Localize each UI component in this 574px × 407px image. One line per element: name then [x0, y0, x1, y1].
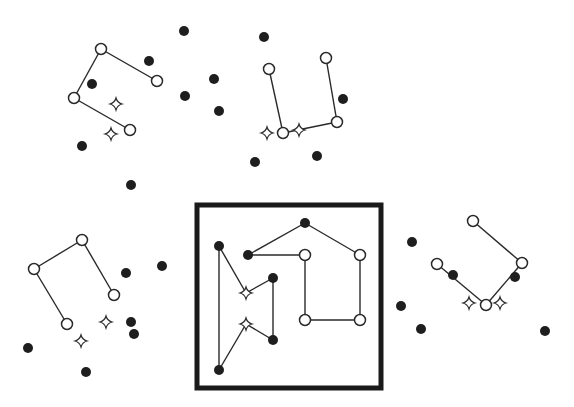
diagram-canvas [0, 0, 574, 407]
filled-nodes [23, 26, 550, 377]
filled-node-icon [126, 180, 136, 190]
star-node-icon [463, 297, 475, 309]
filled-node-icon [209, 74, 219, 84]
star-node-icon [75, 335, 87, 347]
filled-node-icon [126, 317, 136, 327]
filled-node-icon [129, 329, 139, 339]
filled-node-icon [243, 250, 253, 260]
star-node-icon [494, 297, 506, 309]
star-node-icon [105, 128, 117, 140]
filled-node-icon [77, 141, 87, 151]
open-node-icon [321, 53, 332, 64]
open-node-icon [152, 76, 163, 87]
edge-line [437, 264, 486, 305]
edge-line [305, 223, 360, 255]
open-node-icon [355, 315, 366, 326]
star-node-icon [110, 98, 122, 110]
edge-line [34, 240, 82, 269]
open-node-icon [481, 300, 492, 311]
open-node-icon [300, 315, 311, 326]
filled-node-icon [416, 324, 426, 334]
filled-node-icon [179, 26, 189, 36]
edge-line [473, 221, 522, 263]
filled-node-icon [312, 151, 322, 161]
filled-node-icon [250, 157, 260, 167]
open-node-icon [69, 93, 80, 104]
filled-node-icon [214, 106, 224, 116]
filled-node-icon [300, 218, 310, 228]
edge-line [74, 98, 130, 130]
star-node-icon [100, 316, 112, 328]
open-node-icon [332, 117, 343, 128]
filled-node-icon [510, 272, 520, 282]
filled-node-icon [23, 343, 33, 353]
filled-node-icon [180, 91, 190, 101]
open-node-icon [96, 44, 107, 55]
star-nodes [75, 98, 506, 347]
open-node-icon [432, 259, 443, 270]
open-node-icon [109, 290, 120, 301]
open-node-icon [29, 264, 40, 275]
filled-node-icon [338, 94, 348, 104]
open-node-icon [517, 258, 528, 269]
open-node-icon [264, 64, 275, 75]
filled-node-icon [407, 237, 417, 247]
edge-line [82, 240, 114, 295]
edge-line [283, 122, 337, 133]
open-nodes [29, 44, 528, 330]
open-node-icon [355, 250, 366, 261]
star-node-icon [240, 287, 252, 299]
filled-node-icon [268, 335, 278, 345]
filled-node-icon [214, 241, 224, 251]
open-node-icon [77, 235, 88, 246]
filled-node-icon [81, 367, 91, 377]
filled-node-icon [268, 273, 278, 283]
filled-node-icon [157, 261, 167, 271]
open-node-icon [125, 125, 136, 136]
filled-node-icon [259, 32, 269, 42]
edge-line [248, 223, 305, 255]
edge-line [486, 263, 522, 305]
edge-line [219, 324, 246, 370]
filled-node-icon [396, 301, 406, 311]
filled-node-icon [87, 79, 97, 89]
edge-line [219, 246, 246, 293]
star-node-icon [293, 124, 305, 136]
edge-line [269, 69, 283, 133]
open-node-icon [468, 216, 479, 227]
filled-node-icon [448, 270, 458, 280]
filled-node-icon [144, 56, 154, 66]
open-node-icon [62, 319, 73, 330]
star-node-icon [261, 127, 273, 139]
star-node-icon [240, 318, 252, 330]
edge-line [74, 49, 101, 98]
filled-node-icon [121, 268, 131, 278]
open-node-icon [278, 128, 289, 139]
open-node-icon [300, 250, 311, 261]
edge-line [326, 58, 337, 122]
filled-node-icon [540, 326, 550, 336]
edge-line [34, 269, 67, 324]
filled-node-icon [214, 365, 224, 375]
